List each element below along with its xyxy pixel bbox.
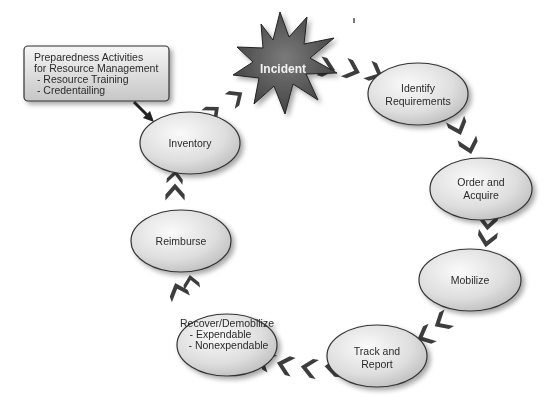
chevron-icon <box>165 184 184 201</box>
incident-label: Incident <box>260 62 306 76</box>
node-track-line-2: Report <box>361 358 393 370</box>
stray-mark <box>353 18 355 23</box>
node-identify-line-2: Requirements <box>385 95 450 107</box>
preparedness-activities-box: Preparedness Activities for Resource Man… <box>24 46 169 101</box>
incident-star: Incident <box>233 12 337 114</box>
node-inventory: Inventory <box>140 112 240 174</box>
preparedness-arrow-icon <box>134 102 154 122</box>
chevron-icon <box>341 58 363 82</box>
chevron-icon <box>430 309 454 334</box>
node-inventory-label: Inventory <box>168 137 212 149</box>
node-mobilize: Mobilize <box>419 249 521 311</box>
chevron-icon <box>299 357 319 379</box>
chevron-icon <box>476 229 498 249</box>
node-order-line-1: Order and <box>457 176 504 188</box>
node-identify-line-1: Identify <box>401 82 436 94</box>
node-order-and-acquire: Order and Acquire <box>430 158 532 220</box>
chevron-icon <box>274 354 295 377</box>
chevron-icon <box>182 274 200 291</box>
node-reimburse: Reimburse <box>131 210 231 272</box>
node-mobilize-label: Mobilize <box>451 274 490 286</box>
node-identify-requirements: Identify Requirements <box>368 63 468 125</box>
chevron-icon <box>446 116 470 138</box>
preparedness-line-4: - Credentailing <box>34 84 105 96</box>
node-track-line-1: Track and <box>354 345 400 357</box>
node-track-and-report: Track and Report <box>327 325 427 387</box>
node-recover-line-3: - Nonexpendable <box>186 339 269 351</box>
chevron-icon <box>458 135 481 156</box>
node-order-line-2: Acquire <box>463 189 499 201</box>
node-recover-demobilize: Recover/Demobilize - Expendable - Nonexp… <box>177 314 277 376</box>
chevron-icon <box>225 85 248 108</box>
resource-management-cycle-diagram: Preparedness Activities for Resource Man… <box>0 0 554 408</box>
node-reimburse-label: Reimburse <box>156 235 207 247</box>
